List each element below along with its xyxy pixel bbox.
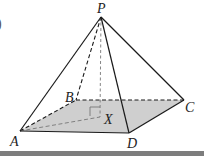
label-A: A: [9, 134, 19, 149]
edge-PC: [101, 17, 184, 100]
bottom-divider-bar: [0, 151, 204, 156]
label-D: D: [126, 136, 137, 151]
pyramid-diagram: P B C A D X: [0, 0, 204, 156]
label-B: B: [65, 90, 74, 105]
edge-PB: [76, 17, 101, 100]
label-P: P: [96, 1, 106, 16]
label-X: X: [103, 112, 113, 127]
base-face: [20, 100, 184, 133]
label-C: C: [185, 100, 195, 115]
